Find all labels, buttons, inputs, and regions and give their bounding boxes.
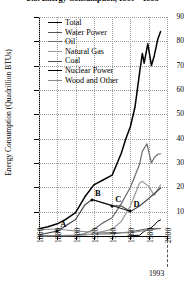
legend-swatch-icon	[48, 70, 62, 71]
y-tick-label: 60	[154, 85, 184, 94]
y-tick	[34, 41, 39, 42]
end-year-leader	[167, 240, 168, 267]
x-tick-label: 1920	[91, 228, 100, 243]
x-tick-label: 1860	[36, 228, 45, 243]
legend-label: Water Power	[65, 28, 107, 38]
annotation-point	[129, 210, 132, 213]
y-tick-label: 20	[154, 182, 184, 191]
legend-item: Coal	[48, 56, 118, 66]
legend-label: Natural Gas	[65, 47, 104, 57]
chart-root: U.S. Energy Consumption, 1860 – 1993 Ene…	[0, 0, 184, 283]
legend-label: Coal	[65, 56, 80, 66]
y-tick-label: 80	[154, 36, 184, 45]
legend-swatch-icon	[48, 32, 62, 33]
legend-item: Total	[48, 18, 118, 28]
y-tick	[34, 17, 39, 18]
legend-item: Natural Gas	[48, 47, 118, 57]
y-tick	[34, 212, 39, 213]
y-tick	[34, 90, 39, 91]
legend-swatch-icon	[48, 80, 62, 81]
legend-swatch-icon	[48, 61, 62, 62]
legend-label: Wood and Other	[65, 76, 118, 86]
legend-item: Water Power	[48, 28, 118, 38]
legend-item: Oil	[48, 37, 118, 47]
annotation-label: B	[95, 189, 101, 198]
y-tick	[34, 187, 39, 188]
x-tick-label: 1940	[109, 228, 118, 243]
y-tick	[34, 66, 39, 67]
y-tick-label: 50	[154, 109, 184, 118]
legend-label: Nuclear Power	[65, 66, 113, 76]
gridline-x	[167, 17, 168, 236]
y-tick-label: 90	[154, 12, 184, 21]
legend-swatch-icon	[48, 51, 62, 52]
legend-item: Nuclear Power	[48, 66, 118, 76]
legend-label: Oil	[65, 37, 75, 47]
annotation-point	[91, 198, 94, 201]
chart-legend: TotalWater PowerOilNatural GasCoalNuclea…	[48, 18, 118, 85]
x-tick-label: 1900	[73, 228, 82, 243]
legend-label: Total	[65, 18, 82, 28]
y-tick	[34, 163, 39, 164]
legend-swatch-icon	[48, 22, 62, 23]
y-tick	[34, 139, 39, 140]
annotation-point	[111, 204, 114, 207]
chart-title: U.S. Energy Consumption, 1860 – 1993	[0, 0, 184, 3]
annotation-label: D	[133, 200, 139, 209]
y-tick-label: 40	[154, 134, 184, 143]
x-tick-label: 1880	[54, 228, 63, 243]
y-tick-label: 30	[154, 158, 184, 167]
end-year-note: 1993	[149, 269, 164, 278]
y-tick-label: 70	[154, 61, 184, 70]
y-tick	[34, 114, 39, 115]
x-tick-label: 1960	[127, 228, 136, 243]
legend-item: Wood and Other	[48, 76, 118, 86]
y-tick-label: 10	[154, 207, 184, 216]
annotation-label: C	[115, 195, 121, 204]
legend-swatch-icon	[48, 41, 62, 42]
y-axis-label: Energy Consumption (Quadrillion BTUs)	[4, 38, 13, 188]
x-tick-label: 1980	[146, 228, 155, 243]
x-tick-label: 2000	[164, 228, 173, 243]
